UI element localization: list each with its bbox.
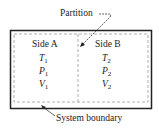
- side-b-v: V2: [102, 80, 111, 91]
- side-a-p: P1: [39, 67, 48, 78]
- side-a-t: T1: [39, 54, 48, 65]
- side-b-title: Side B: [95, 40, 121, 50]
- partition-arrowhead: [80, 42, 85, 47]
- side-b-p: P2: [102, 67, 111, 78]
- side-a-v: V1: [39, 80, 48, 91]
- system-boundary-label: System boundary: [56, 114, 122, 124]
- side-a-title: Side A: [32, 40, 58, 50]
- partition-label: Partition: [60, 9, 93, 19]
- side-b-t: T2: [102, 54, 111, 65]
